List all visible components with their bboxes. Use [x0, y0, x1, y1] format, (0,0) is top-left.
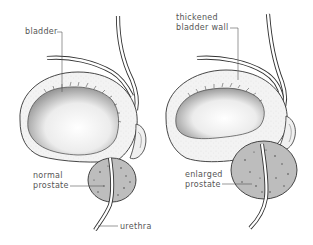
label-enlarged-prostate-1: enlarged [185, 170, 223, 179]
label-normal-prostate-2: prostate [33, 181, 69, 190]
label-thickened-2: bladder wall [176, 23, 229, 32]
bladder-lumen-normal [28, 87, 119, 155]
label-bladder: bladder [25, 27, 58, 36]
label-urethra: urethra [120, 222, 152, 231]
enlarged-panel: thickened bladder wall enlarged prostate [166, 13, 297, 228]
label-thickened-1: thickened [176, 13, 218, 22]
normal-panel: bladder normal prostate urethra [20, 16, 152, 231]
prostate-comparison-diagram: bladder normal prostate urethra [0, 0, 313, 245]
label-enlarged-prostate-2: prostate [185, 180, 221, 189]
label-normal-prostate-1: normal [33, 171, 63, 180]
